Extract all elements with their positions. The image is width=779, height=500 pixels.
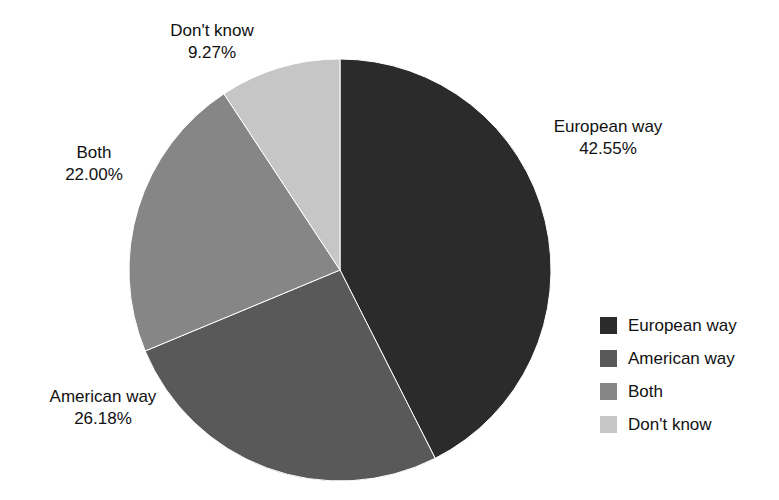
slice-callout-european-way: European way 42.55% [508, 116, 708, 160]
slice-callout-both-value: 22.00% [24, 164, 164, 186]
slice-callout-dont-know-value: 9.27% [112, 42, 312, 64]
legend-item-european-way[interactable]: European way [600, 309, 776, 342]
slice-callout-dont-know: Don't know 9.27% [112, 20, 312, 64]
slice-callout-both: Both 22.00% [24, 142, 164, 186]
slice-callout-american-way-label: American way [8, 386, 198, 408]
slice-callout-dont-know-label: Don't know [112, 20, 312, 42]
slice-callout-european-way-value: 42.55% [508, 138, 708, 160]
chart-canvas: Don't know 9.27% European way 42.55% Bot… [0, 0, 779, 500]
slice-callout-european-way-label: European way [508, 116, 708, 138]
legend-swatch-european-way [600, 317, 617, 334]
legend-item-american-way[interactable]: American way [600, 342, 776, 375]
legend-item-don-t-know[interactable]: Don't know [600, 408, 776, 441]
slice-callout-both-label: Both [24, 142, 164, 164]
legend-label-both: Both [628, 383, 663, 400]
slice-callout-american-way-value: 26.18% [8, 408, 198, 430]
legend-label-don-t-know: Don't know [628, 416, 712, 433]
legend-swatch-don-t-know [600, 416, 617, 433]
chart-legend: European wayAmerican wayBothDon't know [600, 309, 776, 441]
legend-item-both[interactable]: Both [600, 375, 776, 408]
legend-label-american-way: American way [628, 350, 735, 367]
legend-swatch-american-way [600, 350, 617, 367]
legend-swatch-both [600, 383, 617, 400]
slice-callout-american-way: American way 26.18% [8, 386, 198, 430]
legend-label-european-way: European way [628, 317, 737, 334]
